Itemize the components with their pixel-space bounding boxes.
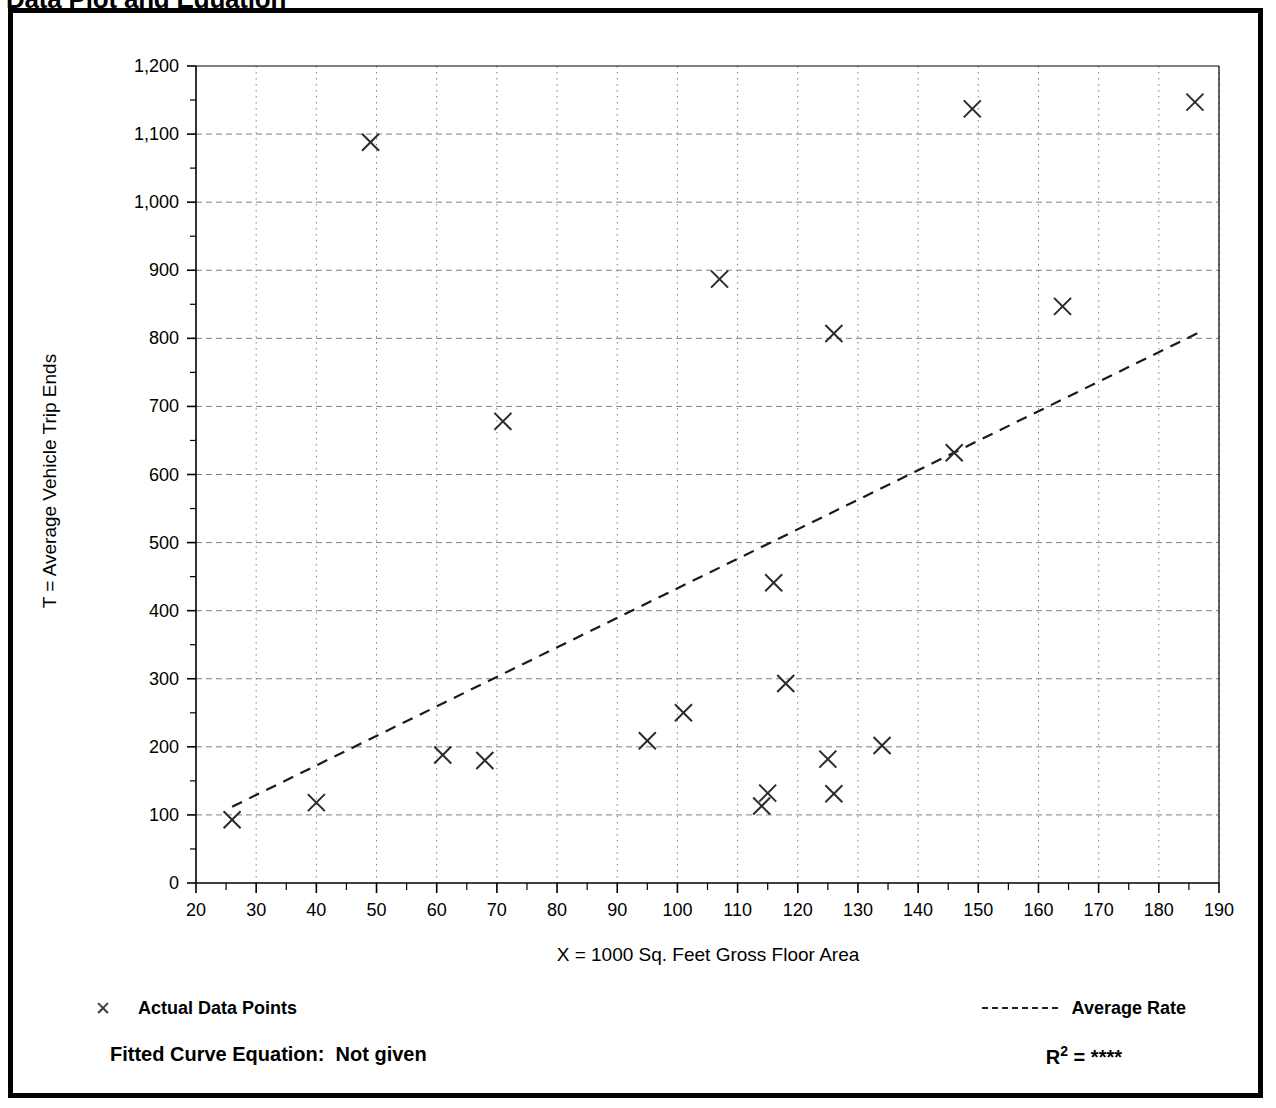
y-axis-title: T = Average Vehicle Trip Ends <box>39 311 61 651</box>
legend-item-actual-data-points: ✕ Actual Data Points <box>86 993 297 1023</box>
x-marker-icon: ✕ <box>86 999 120 1018</box>
chart-footer: Fitted Curve Equation: Not given R2 = **… <box>110 1043 1150 1077</box>
dashed-line-icon <box>982 1007 1058 1009</box>
r-squared-label: R <box>1046 1046 1060 1068</box>
fitted-curve-value: Not given <box>336 1043 427 1065</box>
fitted-curve-equation: Fitted Curve Equation: Not given <box>110 1043 427 1066</box>
legend-label-actual-data-points: Actual Data Points <box>138 998 297 1019</box>
chart-frame-border <box>8 8 1263 1098</box>
chart-legend: ✕ Actual Data Points Average Rate <box>86 993 1186 1023</box>
x-axis-title: X = 1000 Sq. Feet Gross Floor Area <box>196 944 1220 966</box>
r-squared-number: **** <box>1091 1046 1122 1068</box>
fitted-curve-label: Fitted Curve Equation: <box>110 1043 324 1065</box>
r-squared-exponent: 2 <box>1060 1043 1068 1059</box>
legend-label-average-rate: Average Rate <box>1072 998 1186 1019</box>
r-squared-equals: = <box>1074 1046 1086 1068</box>
r-squared-value: R2 = **** <box>1046 1043 1122 1069</box>
legend-item-average-rate: Average Rate <box>982 993 1186 1023</box>
chart-page: Data Plot and Equation 01002003004005006… <box>0 0 1276 1108</box>
